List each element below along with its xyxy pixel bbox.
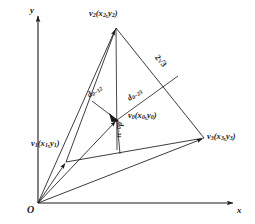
y-axis-label: y <box>30 6 34 15</box>
position-vectors <box>38 30 202 203</box>
vector-O-to-v1 <box>38 164 65 204</box>
edge-v3-v1 <box>66 138 204 162</box>
origin-label: O <box>27 205 34 215</box>
v2-close: ) <box>115 8 118 18</box>
v3-close: ) <box>233 131 236 141</box>
distance-label-d0-31: d0−31 <box>115 122 124 138</box>
v1-close: ) <box>57 138 60 148</box>
vertex-label-v1: v1(x1,y1) <box>31 139 60 148</box>
vertex-label-v3: v3(x3,y3) <box>207 132 236 141</box>
v0-point-marker <box>109 113 120 122</box>
v2-open: (x <box>96 8 103 18</box>
vertex-label-v2: v2(x2,y2) <box>89 9 118 18</box>
vertex-label-v0: v0(x0,y0) <box>128 111 157 120</box>
v1-open: (x <box>38 138 45 148</box>
geometry-figure: y x O v2(x2,y2) v3(x3,y3) v1(x1,y1) v0(x… <box>0 0 255 224</box>
edge-v2-v3 <box>116 28 204 138</box>
x-axis-label: x <box>237 206 242 215</box>
d0-31-subscript: 0−31 <box>116 126 122 138</box>
v3-open: (x <box>214 131 221 141</box>
v0-open: (x <box>135 110 142 120</box>
v0-close: ) <box>154 110 157 120</box>
